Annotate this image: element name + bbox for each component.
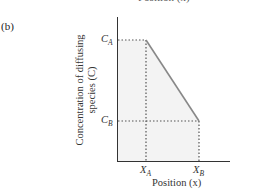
- diffusion-profile-plot: [0, 0, 280, 191]
- x-axis-label: Position (x): [152, 177, 201, 188]
- y-axis-label-line1: Concentration of diffusing: [74, 34, 86, 145]
- tick-xa: XA: [140, 164, 151, 178]
- tick-ca: CA: [101, 33, 113, 47]
- tick-cb: CB: [101, 114, 113, 128]
- y-axis-label-line2: species (C): [86, 34, 98, 145]
- y-axis-label: Concentration of diffusing species (C): [74, 34, 98, 145]
- tick-xb: XB: [193, 164, 204, 178]
